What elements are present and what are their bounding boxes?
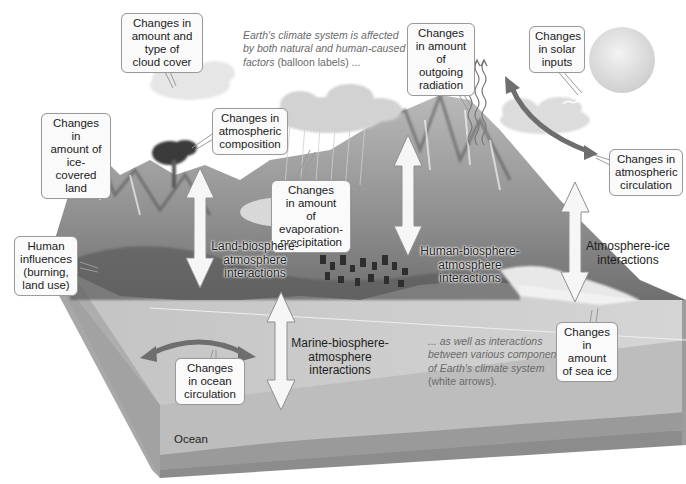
sun-icon	[589, 27, 655, 93]
balloon-sea-ice: Changes in amount of sea ice	[556, 322, 618, 382]
balloon-ice-covered-land: Changes in amount of ice-covered land	[41, 113, 111, 199]
balloon-ocean-circulation: Changes in ocean circulation	[175, 358, 245, 405]
label-land-biosphere: Land-biosphere- atmosphere interactions	[207, 240, 303, 281]
balloon-solar-inputs: Changes in solar inputs	[529, 26, 585, 73]
label-marine-biosphere: Marine-biosphere- atmosphere interaction…	[288, 337, 392, 378]
description-top: Earth's climate system is affected by bo…	[243, 15, 405, 69]
balloon-human-influences: Human influences (burning, land use)	[14, 236, 78, 296]
label-human-biosphere: Human-biosphere- atmosphere interactions	[420, 245, 520, 286]
balloon-cloud-cover: Changes in amount and type of cloud cove…	[121, 13, 203, 73]
balloon-atmospheric-circulation: Changes in atmospheric circulation	[609, 149, 683, 196]
ocean-label: Ocean	[174, 433, 208, 445]
label-atmosphere-ice: Atmosphere-ice interactions	[580, 240, 676, 267]
balloon-outgoing-radiation: Changes in amount of outgoing radiation	[407, 23, 475, 96]
description-bottom: ... as well as interactions between vari…	[428, 321, 565, 389]
balloon-atmospheric-composition: Changes in atmospheric composition	[212, 108, 288, 155]
